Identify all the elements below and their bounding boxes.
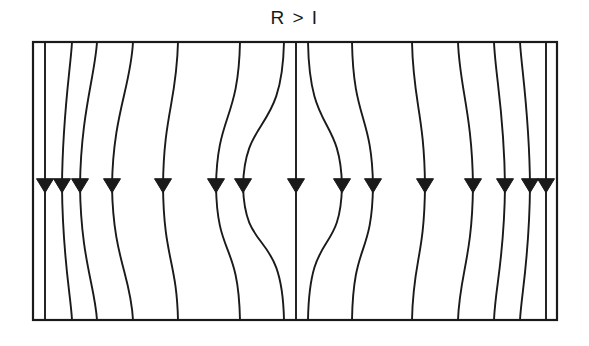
flow-arrowhead [104,179,121,193]
flow-arrowhead [37,179,54,193]
arrowhead-group [37,179,555,193]
flow-arrowhead [334,179,351,193]
flow-arrowhead [72,179,89,193]
flow-arrowhead [538,179,555,193]
streamline-plot [0,0,589,346]
figure-title: R > I [0,7,589,29]
flow-arrowhead [235,179,252,193]
flow-arrowhead [497,179,514,193]
flow-arrowhead [208,179,225,193]
streamline-figure: R > I [0,0,589,346]
flow-arrowhead [417,179,434,193]
flow-arrowhead [54,179,71,193]
flow-arrowhead [465,179,482,193]
flow-arrowhead [365,179,382,193]
flow-arrowhead [288,179,305,193]
flow-arrowhead [522,179,539,193]
flow-arrowhead [155,179,172,193]
